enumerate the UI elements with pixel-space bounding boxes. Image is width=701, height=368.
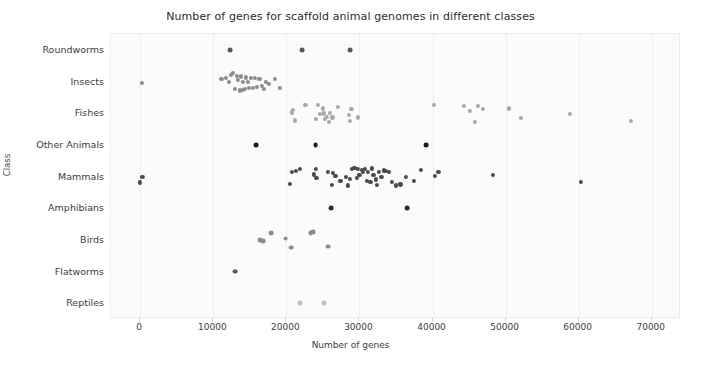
data-point xyxy=(240,80,244,84)
x-gridline xyxy=(213,34,214,317)
data-point xyxy=(327,120,331,124)
data-point xyxy=(436,170,440,174)
data-point xyxy=(326,170,330,174)
data-point xyxy=(326,244,331,249)
data-point xyxy=(519,116,523,120)
data-point xyxy=(261,239,266,244)
x-axis-tick-label: 20000 xyxy=(271,322,300,332)
data-point xyxy=(321,106,325,110)
x-axis-tick-label: 70000 xyxy=(636,322,665,332)
data-point xyxy=(419,168,423,172)
data-point xyxy=(257,77,261,81)
data-point xyxy=(379,174,383,178)
data-point xyxy=(246,80,250,84)
x-axis-tick-label: 50000 xyxy=(490,322,519,332)
data-point xyxy=(432,103,436,107)
data-point xyxy=(334,174,338,178)
y-axis-tick-label-insects: Insects xyxy=(0,75,104,86)
y-axis-tick-labels: RoundwormsInsectsFishesOther AnimalsMamm… xyxy=(0,33,104,318)
data-point xyxy=(387,170,391,174)
x-axis-tick-label: 0 xyxy=(136,322,142,332)
data-point xyxy=(314,176,318,180)
data-point xyxy=(314,167,318,171)
data-point xyxy=(348,119,352,123)
data-point xyxy=(283,236,288,241)
data-point xyxy=(140,81,144,85)
data-point xyxy=(375,183,379,187)
data-point xyxy=(348,47,353,52)
data-point xyxy=(346,183,350,187)
data-point xyxy=(424,142,429,147)
data-point xyxy=(140,175,144,179)
data-point xyxy=(579,180,583,184)
data-point xyxy=(262,87,266,91)
data-point xyxy=(476,104,480,108)
data-point xyxy=(239,74,243,78)
y-axis-tick-label-fishes: Fishes xyxy=(0,107,104,118)
y-axis-tick-label-reptiles: Reptiles xyxy=(0,297,104,308)
data-point xyxy=(462,104,466,108)
data-point xyxy=(311,229,316,234)
chart-figure: Number of genes for scaffold animal geno… xyxy=(0,0,701,368)
data-point xyxy=(349,107,353,111)
x-axis-title: Number of genes xyxy=(0,340,701,350)
data-point xyxy=(411,179,415,183)
x-gridline xyxy=(286,34,287,317)
data-point xyxy=(368,180,372,184)
data-point xyxy=(481,107,485,111)
y-axis-tick-label-mammals: Mammals xyxy=(0,170,104,181)
data-point xyxy=(405,206,410,211)
data-point xyxy=(228,47,233,52)
x-axis-tick-label: 40000 xyxy=(417,322,446,332)
data-point xyxy=(336,105,340,109)
data-point xyxy=(398,182,402,186)
data-point xyxy=(324,115,328,119)
x-axis-tick-label: 30000 xyxy=(344,322,373,332)
data-point xyxy=(468,109,472,113)
data-point xyxy=(303,103,307,107)
data-point xyxy=(227,80,231,84)
y-axis-tick-label-roundworms: Roundworms xyxy=(0,43,104,54)
data-point xyxy=(491,173,495,177)
data-point xyxy=(348,176,352,180)
data-point xyxy=(322,301,327,306)
data-point xyxy=(316,102,320,106)
data-point xyxy=(346,113,350,117)
data-point xyxy=(254,142,259,147)
x-axis-tick-label: 60000 xyxy=(563,322,592,332)
data-point xyxy=(300,47,305,52)
data-point xyxy=(371,173,375,177)
data-point xyxy=(330,183,334,187)
data-point xyxy=(568,111,572,115)
plot-area xyxy=(110,33,680,318)
y-axis-tick-label-flatworms: Flatworms xyxy=(0,265,104,276)
data-point xyxy=(506,106,510,110)
data-point xyxy=(329,206,334,211)
y-axis-tick-label-other-animals: Other Animals xyxy=(0,138,104,149)
data-point xyxy=(278,86,282,90)
data-point xyxy=(403,175,407,179)
y-axis-tick-label-amphibians: Amphibians xyxy=(0,202,104,213)
data-point xyxy=(314,117,318,121)
data-point xyxy=(288,182,292,186)
data-point xyxy=(433,174,437,178)
data-point xyxy=(628,119,632,123)
data-point xyxy=(269,231,274,236)
x-axis-tick-labels: 010000200003000040000500006000070000 xyxy=(0,322,701,338)
x-axis-tick-label: 10000 xyxy=(198,322,227,332)
data-point xyxy=(267,81,271,85)
data-point xyxy=(291,108,295,112)
data-point xyxy=(366,170,370,174)
y-axis-tick-label-birds: Birds xyxy=(0,233,104,244)
data-point xyxy=(298,301,303,306)
chart-title: Number of genes for scaffold animal geno… xyxy=(0,10,701,23)
data-point xyxy=(373,177,377,181)
data-point xyxy=(473,119,477,123)
data-point xyxy=(338,179,342,183)
data-point xyxy=(233,269,238,274)
data-point xyxy=(370,166,374,170)
data-point xyxy=(313,142,318,147)
data-point xyxy=(273,77,277,81)
data-point xyxy=(138,180,142,184)
data-point xyxy=(390,180,394,184)
